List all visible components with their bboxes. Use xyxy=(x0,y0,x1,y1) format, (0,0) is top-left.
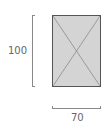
height-label: 100 xyxy=(8,46,27,56)
width-label: 70 xyxy=(71,113,84,123)
width-dimension-bracket xyxy=(52,106,101,109)
placeholder-rectangle xyxy=(52,15,101,87)
cross-icon xyxy=(53,16,100,86)
height-dimension-bracket xyxy=(32,15,35,87)
